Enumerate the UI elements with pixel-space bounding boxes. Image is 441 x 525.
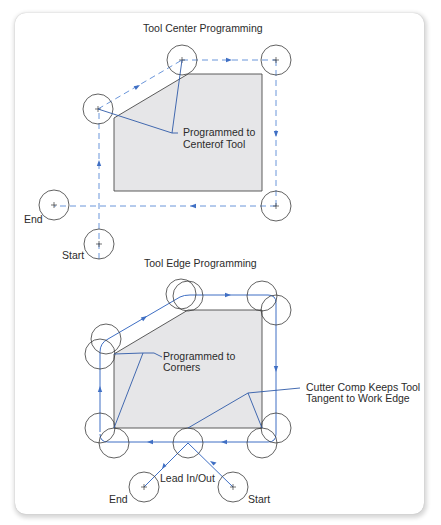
arrow-left-icon [190,204,196,208]
arrow-left-icon [221,440,227,444]
bottom-start-label: Start [248,493,270,505]
bottom-diagram-title: Tool Edge Programming [144,257,257,269]
arrow-right-icon [225,293,231,297]
top-callout-line2: Centerof Tool [183,138,245,150]
arrow-left-icon [147,440,153,444]
bottom-center-marks [141,484,236,490]
arrow-lead-out-icon [162,463,167,469]
lead-in-out-label: Lead In/Out [160,472,215,484]
top-start-label: Start [62,249,84,261]
top-end-label: End [24,213,43,225]
arrow-diagonal-icon [134,85,140,90]
corners-callout-line2: Corners [163,361,200,373]
tool-edge-programming-diagram: Tool Edge Programming [85,257,420,505]
arrow-up-icon [98,386,102,392]
top-callout-line1: Programmed to [183,126,256,138]
arrow-down-icon [274,131,278,137]
arrow-diagonal-icon [141,316,147,321]
tool-center-programming-diagram: Tool Center Programming [24,22,291,261]
arrow-down-icon [274,366,278,372]
cutter-comp-callout-line2: Tangent to Work Edge [306,392,410,404]
top-diagram-title: Tool Center Programming [143,22,263,34]
arrow-up-icon [97,160,101,166]
arrow-right-icon [226,58,232,62]
bottom-end-label: End [109,493,128,505]
cutter-compensation-diagram: Tool Center Programming [0,0,441,525]
